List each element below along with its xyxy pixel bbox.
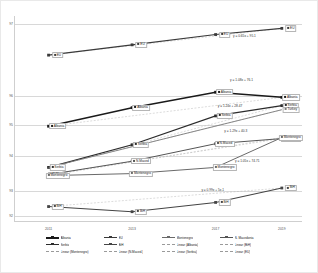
y-axis-tick-label: 96: [1, 94, 13, 98]
y-axis-tick-label: 94: [1, 154, 13, 158]
legend-marker-icon: [225, 236, 228, 239]
legend-item-label: Linear (Serbia): [177, 250, 197, 254]
legend-item[interactable]: Linear (Serbia): [162, 248, 220, 255]
data-point-label-text: BiH: [56, 204, 61, 208]
data-point-label: BiH: [135, 209, 147, 215]
legend-marker-icon: [281, 136, 283, 138]
data-point-label: BiH: [51, 203, 63, 209]
legend-swatch-icon: [104, 249, 117, 254]
legend-marker-icon: [219, 114, 221, 116]
legend-item[interactable]: Linear (N.Maced.): [104, 248, 162, 255]
data-point-label-text: N.Maced: [220, 141, 233, 145]
legend-marker-icon: [135, 143, 137, 145]
data-point-label: Serbia: [49, 164, 65, 170]
legend-item[interactable]: EU: [104, 234, 162, 241]
legend-item-label: Linear (N.Maced.): [119, 250, 144, 254]
legend-marker-icon: [217, 142, 219, 144]
legend-marker-icon: [284, 96, 286, 98]
legend-marker-icon: [133, 160, 135, 162]
data-point-marker: [280, 27, 283, 30]
legend-marker-icon: [52, 166, 54, 168]
data-point-marker: [214, 201, 217, 204]
y-axis-tick-label: 95: [1, 123, 13, 127]
legend-swatch-icon: [162, 249, 175, 254]
x-axis-tick-label: 2013: [128, 227, 136, 231]
legend-swatch-icon: [162, 235, 175, 240]
data-point-label-text: BiH: [223, 200, 228, 204]
data-point-label: EU: [135, 42, 147, 48]
data-point-label: EU: [219, 31, 231, 37]
data-point-label: N.Maced: [131, 158, 151, 164]
legend-swatch-icon: [46, 249, 59, 254]
x-axis-tick-label: 2017: [212, 227, 220, 231]
data-series-layer: [14, 16, 302, 222]
legend-item-label: EU: [119, 236, 123, 240]
legend-item-label: Linear (Montenegro): [61, 250, 89, 254]
data-point-label: N.Maced: [215, 141, 235, 147]
data-point-label: EU: [285, 25, 297, 31]
data-point-label-text: EU: [140, 42, 144, 46]
legend-swatch-icon: [104, 242, 117, 247]
data-point-marker: [131, 43, 134, 46]
data-point-marker: [47, 54, 50, 57]
data-point-label-text: Albania: [287, 95, 298, 99]
legend-marker-icon: [131, 172, 133, 174]
trendline: [49, 188, 282, 207]
data-point-label-text: Serbia: [138, 142, 147, 146]
legend-item[interactable]: Linear (BiH): [220, 241, 278, 248]
data-point-label-text: Turkey: [287, 107, 297, 111]
legend-item-label: Linear (Albania): [177, 243, 199, 247]
data-point-label-text: BiH: [290, 185, 295, 189]
plot-area: 979695949392 2011201320172019 AlbaniaAlb…: [14, 16, 302, 222]
legend-swatch-icon: [46, 235, 59, 240]
legend-marker-icon: [48, 174, 50, 176]
legend-item[interactable]: Linear (Montenegro): [46, 248, 104, 255]
legend-item[interactable]: N. Macedonia: [220, 234, 278, 241]
data-point-label-text: Serbia: [54, 165, 63, 169]
data-point-label-text: Albania: [137, 105, 148, 109]
trendline-equation-label: y = 1.24x + 28.47: [218, 104, 243, 108]
trendline-equation-label: y = 1.08x + 76.1: [230, 78, 253, 82]
data-point-label: Montenegro: [129, 171, 153, 177]
legend-item[interactable]: Linear (Albania): [162, 241, 220, 248]
y-axis-tick-label: 97: [1, 22, 13, 26]
data-point-marker: [131, 210, 134, 213]
legend-item[interactable]: BiH: [104, 241, 162, 248]
data-point-label: Albania: [49, 123, 67, 129]
legend-swatch-icon: [104, 235, 117, 240]
data-point-label: BiH: [218, 199, 230, 205]
legend-item[interactable]: Serbia: [46, 241, 104, 248]
legend-marker-icon: [134, 106, 136, 108]
legend-item[interactable]: Linear (EU): [220, 248, 278, 255]
data-point-label-text: Montenegro: [134, 171, 151, 175]
legend-marker-icon: [51, 125, 53, 127]
x-axis-tick-label: 2011: [45, 227, 52, 231]
legend-item-label: Linear (BiH): [235, 243, 252, 247]
legend-marker-icon: [221, 201, 223, 203]
data-point-label: Albania: [282, 94, 300, 100]
data-point-marker: [280, 187, 283, 190]
data-point-label-text: Albania: [54, 124, 65, 128]
chart-legend: AlbaniaEUMontenegroN. MacedoniaSerbiaBiH…: [46, 234, 278, 255]
data-point-label-text: Montenegro: [217, 165, 234, 169]
legend-marker-icon: [137, 210, 139, 212]
data-point-label: Montenegro: [213, 164, 237, 170]
legend-marker-icon: [109, 236, 112, 239]
legend-marker-icon: [218, 91, 220, 93]
y-axis-tick-label: 92: [1, 214, 13, 218]
legend-item[interactable]: Albania: [46, 234, 104, 241]
data-point-label: EU: [52, 52, 64, 58]
legend-marker-icon: [51, 236, 54, 239]
legend-marker-icon: [215, 166, 217, 168]
data-point-label-text: N.Maced: [136, 159, 149, 163]
data-point-label-text: EU: [290, 26, 294, 30]
legend-item[interactable]: Montenegro: [162, 234, 220, 241]
trendline-equation-label: y = 1.05x + 74.71: [235, 159, 260, 163]
trendline-equation-label: y = 0.99x + 5x.1: [201, 188, 224, 192]
legend-swatch-icon: [162, 242, 175, 247]
trendline: [49, 138, 282, 176]
x-axis-tick-label: 2019: [278, 227, 286, 231]
trendline-equation-label: y = 0.65x + 95.1: [233, 34, 256, 38]
data-point-label-text: Montenegro: [50, 173, 67, 177]
